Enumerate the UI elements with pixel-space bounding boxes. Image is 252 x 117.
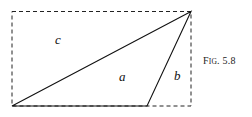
- label-a: a: [119, 70, 126, 83]
- label-c: c: [55, 33, 61, 46]
- figure-caption: FIG. 5.8: [203, 56, 236, 66]
- solid-triangle: [12, 12, 191, 107]
- label-b: b: [174, 69, 181, 82]
